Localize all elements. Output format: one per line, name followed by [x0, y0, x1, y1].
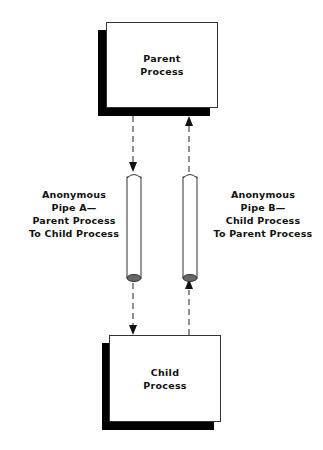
arrow-down-icon	[129, 325, 137, 335]
pipe-b-label: Anonymous Pipe B— Child Process To Paren…	[203, 188, 323, 240]
arrow-down-icon	[129, 162, 137, 172]
arrow-up-icon	[185, 116, 193, 126]
pipe-b-cylinder	[183, 177, 197, 278]
pipe-a-label: Anonymous Pipe A— Parent Process To Chil…	[18, 188, 130, 240]
pipe-b-connector	[183, 116, 197, 335]
pipe-b-end	[183, 275, 197, 282]
pipe-a-end	[127, 275, 141, 282]
